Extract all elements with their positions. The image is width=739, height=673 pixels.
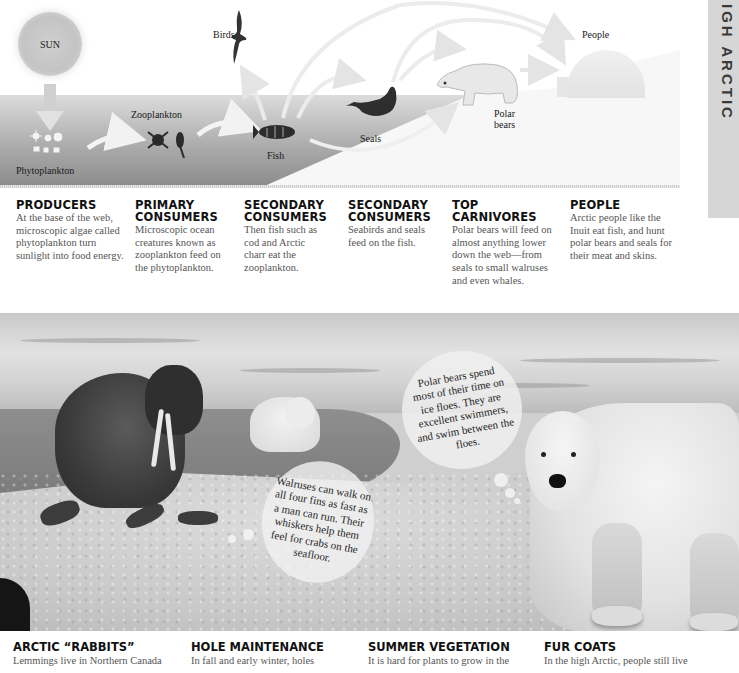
section-hole-maintenance: HOLE MAINTENANCE In fall and early winte… [191, 641, 324, 667]
walrus-flipper [178, 511, 218, 525]
label-people: People [582, 29, 609, 40]
sun-icon: SUN [18, 12, 82, 76]
ice-ridge [20, 338, 200, 343]
walrus-head [145, 365, 203, 435]
section-side-tab-label: IGH ARCTIC [712, 4, 736, 124]
column-secondary-consumers-fish: SECONDARY CONSUMERS Then fish such as co… [244, 199, 340, 275]
column-title: PRIMARY CONSUMERS [135, 199, 235, 223]
section-text: It is hard for plants to grow in the [368, 654, 510, 667]
column-text: Then fish such as cod and Arctic charr e… [244, 224, 322, 275]
column-title: SECONDARY CONSUMERS [244, 199, 340, 223]
label-seals: Seals [360, 133, 381, 144]
column-producers: PRODUCERS At the base of the web, micros… [16, 199, 124, 263]
column-secondary-consumers-seabirds: SECONDARY CONSUMERS Seabirds and seals f… [348, 199, 444, 249]
sun-label: SUN [40, 39, 60, 50]
polar-bear-icon [437, 55, 521, 107]
label-fish: Fish [267, 150, 284, 161]
section-fur-coats: FUR COATS In the high Arctic, people sti… [544, 641, 688, 667]
thought-dot [505, 488, 515, 498]
section-summer-vegetation: SUMMER VEGETATION It is hard for plants … [368, 641, 510, 667]
column-text: Microscopic ocean creatures known as zoo… [135, 224, 235, 275]
food-web-diagram: SUN Birds People Zooplankton Phytoplankt… [0, 0, 680, 188]
polar-bear-eye [571, 452, 576, 457]
zooplankton-icon [146, 128, 192, 158]
label-polar-bears-line2: bears [494, 119, 515, 130]
fish-icon [253, 123, 297, 143]
section-arctic-rabbits: ARCTIC “RABBITS” Lemmings live in Northe… [13, 641, 162, 667]
label-birds: Birds [213, 29, 235, 40]
section-title: HOLE MAINTENANCE [191, 641, 324, 654]
polar-bear-head [525, 411, 600, 511]
sunlight-arrow-head-icon [36, 111, 64, 131]
sunlight-arrow-icon [44, 84, 56, 112]
polar-bear-paw [690, 613, 738, 631]
fact-bubble-text: Walruses can walk on all four fins as fa… [262, 473, 375, 570]
column-title: PRODUCERS [16, 199, 124, 211]
section-text: In fall and early winter, holes [191, 654, 324, 667]
fact-bubble-text: Polar bears spend most of their time on … [406, 361, 519, 458]
column-text: Seabirds and seals feed on the fish. [348, 224, 432, 249]
label-phytoplankton: Phytoplankton [16, 165, 74, 176]
polar-bear-eye [541, 452, 546, 457]
arctic-photo: Polar bears spend most of their time on … [0, 313, 739, 631]
label-zooplankton: Zooplankton [131, 109, 182, 120]
column-text: Polar bears will feed on almost anything… [452, 224, 562, 288]
thought-dot [243, 529, 254, 540]
section-text: In the high Arctic, people still live [544, 654, 688, 667]
section-title: FUR COATS [544, 641, 688, 654]
thought-dot [514, 498, 520, 504]
seal-icon [346, 84, 402, 128]
polar-bear-paw [592, 606, 642, 626]
column-title: SECONDARY CONSUMERS [348, 199, 444, 223]
column-title: PEOPLE [570, 199, 674, 211]
polar-bear-nose [549, 474, 566, 488]
column-top-carnivores: TOP CARNIVORES Polar bears will feed on … [452, 199, 562, 288]
thought-dot [494, 473, 508, 487]
ice-ridge [240, 368, 380, 373]
label-polar-bears: Polar bears [494, 108, 515, 130]
column-people: PEOPLE Arctic people like the Inuit eat … [570, 199, 674, 263]
column-text: Arctic people like the Inuit eat fish, a… [570, 212, 674, 263]
section-title: ARCTIC “RABBITS” [13, 641, 162, 654]
swimming-polar-bear-head [285, 397, 315, 429]
column-primary-consumers: PRIMARY CONSUMERS Microscopic ocean crea… [135, 199, 235, 275]
phytoplankton-icon [30, 130, 66, 156]
section-text: Lemmings live in Northern Canada [13, 654, 162, 667]
ice-ridge [520, 358, 720, 363]
column-text: At the base of the web, microscopic alga… [16, 212, 124, 263]
label-polar-bears-line1: Polar [494, 108, 515, 119]
section-title: SUMMER VEGETATION [368, 641, 510, 654]
thought-dot [228, 535, 236, 543]
column-title: TOP CARNIVORES [452, 199, 542, 223]
